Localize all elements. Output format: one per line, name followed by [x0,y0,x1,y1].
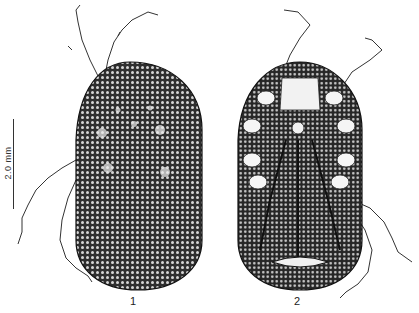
specimen-ventral [238,10,412,298]
figure-label-1: 1 [130,295,136,307]
scale-bar-label: 2.0 mm [3,143,13,183]
figure-canvas [0,0,419,313]
specimen-dorsal [18,5,202,290]
scale-bar [13,119,14,209]
figure-label-2: 2 [294,295,300,307]
